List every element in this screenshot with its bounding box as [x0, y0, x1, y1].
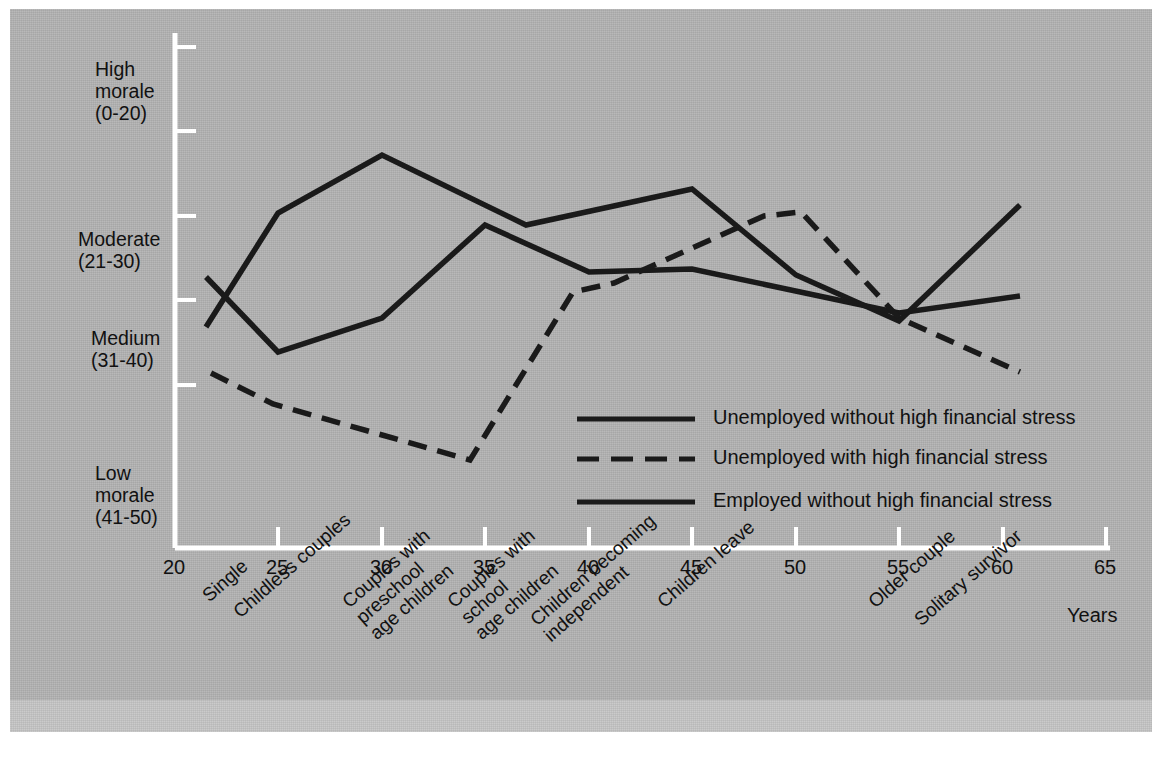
y-axis-label-low-morale: Low morale (41-50)	[95, 462, 158, 528]
page-margin-bottom	[0, 732, 1163, 770]
x-tick-label-20: 20	[163, 556, 185, 579]
series-unemployed-without-stress	[206, 155, 1020, 327]
page-margin-right	[1152, 0, 1163, 770]
x-tick-label-50: 50	[784, 556, 806, 579]
x-tick-label-65: 65	[1094, 556, 1116, 579]
y-axis-label-medium: Medium (31-40)	[91, 327, 160, 371]
legend-item-employed-without-stress: Employed without high financial stress	[577, 489, 1052, 512]
y-axis-label-high-morale: High morale (0-20)	[95, 58, 155, 124]
series-employed-without-stress	[206, 225, 1020, 352]
legend-label-2: Employed without high financial stress	[713, 489, 1052, 512]
x-axis-title: Years	[1067, 604, 1117, 627]
y-axis-label-moderate: Moderate (21-30)	[78, 228, 160, 272]
chart-figure: High morale (0-20) Moderate (21-30) Medi…	[0, 0, 1163, 770]
legend-item-unemployed-without-stress: Unemployed without high financial stress	[577, 406, 1075, 429]
legend-label-0: Unemployed without high financial stress	[713, 406, 1075, 429]
chart-canvas	[0, 0, 1163, 770]
page-margin-left	[0, 0, 10, 770]
legend-label-1: Unemployed with high financial stress	[713, 446, 1048, 469]
legend-item-unemployed-with-stress: Unemployed with high financial stress	[577, 446, 1048, 469]
page-margin-top	[0, 0, 1163, 9]
